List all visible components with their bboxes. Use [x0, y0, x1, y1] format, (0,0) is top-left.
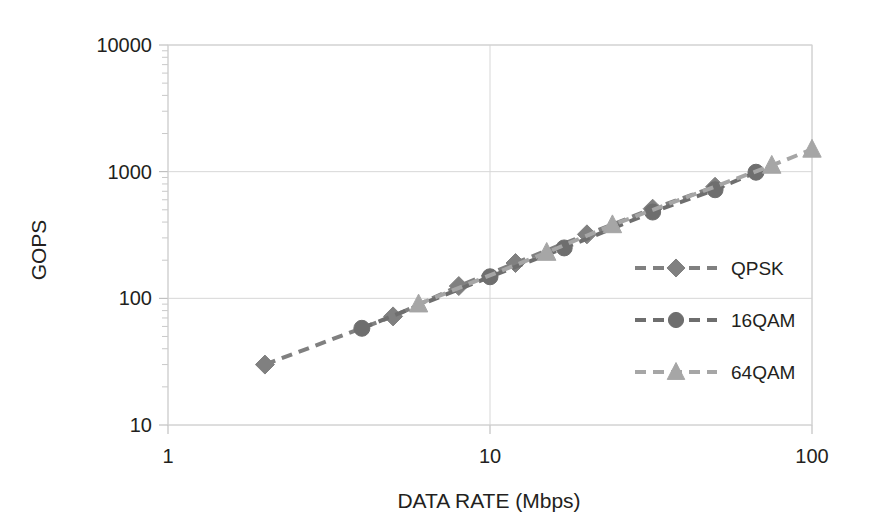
x-axis-tick-label: 1	[162, 445, 173, 467]
x-axis-title: DATA RATE (Mbps)	[397, 489, 580, 512]
legend-entry-64qam[interactable]: 64QAM	[635, 362, 795, 383]
y-axis-title: GOPS	[27, 220, 50, 281]
y-axis-tick-label: 10000	[96, 34, 152, 56]
data-series-group	[255, 139, 821, 374]
chart-figure: 10000100010010 110100 DATA RATE (Mbps) G…	[0, 0, 893, 529]
y-axis-tick-label: 1000	[108, 161, 153, 183]
y-axis-tick-label: 10	[130, 414, 152, 436]
marker-circle	[354, 320, 370, 336]
x-axis-tick-label: 100	[795, 445, 828, 467]
legend-label: QPSK	[731, 258, 784, 279]
marker-diamond	[667, 259, 685, 277]
legend-entry-16qam[interactable]: 16QAM	[635, 310, 795, 331]
minor-tick-marks	[162, 51, 168, 387]
marker-circle	[668, 312, 683, 327]
marker-diamond	[255, 355, 274, 374]
y-axis-tick-labels: 10000100010010	[96, 34, 152, 436]
log-log-line-chart: 10000100010010 110100 DATA RATE (Mbps) G…	[0, 0, 893, 529]
legend-label: 16QAM	[731, 310, 795, 331]
legend-label: 64QAM	[731, 362, 795, 383]
marker-triangle	[803, 139, 821, 157]
marker-triangle	[667, 363, 684, 380]
x-axis-tick-label: 10	[479, 445, 501, 467]
major-tick-marks	[159, 45, 812, 434]
x-axis-tick-labels: 110100	[162, 445, 828, 467]
chart-legend: QPSK16QAM64QAM	[635, 258, 795, 383]
legend-entry-qpsk[interactable]: QPSK	[635, 258, 784, 279]
y-axis-tick-label: 100	[119, 287, 152, 309]
